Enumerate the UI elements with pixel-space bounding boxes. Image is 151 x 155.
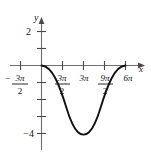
numerator: 3π <box>14 73 25 83</box>
denominator: 2 <box>103 86 108 96</box>
x-tick-label-9pi-over-2: 9π 2 <box>98 73 113 96</box>
numerator: 3π <box>56 73 67 83</box>
y-axis <box>39 17 45 150</box>
numerator: 9π <box>100 73 110 83</box>
x-axis-label: x <box>138 64 143 74</box>
y-axis-label: y <box>33 12 39 23</box>
y-tick-label-neg-4: −4 <box>23 128 34 139</box>
coordinate-plane-svg: y x 2 −4 − 3π 2 3π 2 3π 9π 2 6π <box>0 0 151 155</box>
denominator: 2 <box>18 86 23 96</box>
x-tick-label-neg-3pi-over-2: − 3π 2 <box>5 73 28 96</box>
y-tick-label-2: 2 <box>26 26 31 37</box>
denominator: 2 <box>60 86 65 96</box>
graph-figure: y x 2 −4 − 3π 2 3π 2 3π 9π 2 6π <box>0 0 151 155</box>
y-axis-arrowhead <box>39 17 45 24</box>
x-tick-label-3pi: 3π <box>78 73 89 83</box>
x-tick-label-6pi: 6π <box>123 73 133 83</box>
neg-sign: − <box>5 73 10 83</box>
